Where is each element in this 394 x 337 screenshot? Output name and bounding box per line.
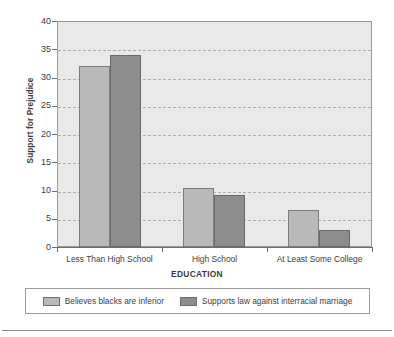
y-axis-tick-label: 35 — [17, 45, 51, 54]
bar — [319, 230, 350, 247]
bar — [183, 188, 214, 247]
gridline — [58, 50, 371, 51]
bar — [214, 195, 245, 247]
y-axis-tick-label: 25 — [17, 101, 51, 110]
y-axis-tick-mark — [52, 106, 57, 107]
y-axis-tick-label: 15 — [17, 158, 51, 167]
y-axis-tick-label: 10 — [17, 186, 51, 195]
y-axis-tick-label: 30 — [17, 73, 51, 82]
y-axis-tick-label: 5 — [17, 214, 51, 223]
y-axis-tick-mark — [52, 21, 57, 22]
y-axis-tick-mark — [52, 78, 57, 79]
legend-item-label: Believes blacks are inferior — [65, 296, 164, 306]
bottom-divider — [2, 330, 392, 331]
bar — [79, 66, 110, 247]
y-axis-tick-mark — [52, 49, 57, 50]
legend-swatch-icon — [43, 297, 60, 306]
y-axis-tick-label: 0 — [17, 243, 51, 252]
bar-chart-figure: Support for Prejudice 0510152025303540 L… — [0, 0, 394, 337]
x-axis-tick-mark — [57, 247, 58, 252]
x-axis-tick-mark — [267, 247, 268, 252]
x-axis-title: EDUCATION — [0, 269, 394, 279]
x-axis-line — [57, 247, 372, 248]
y-axis-tick-label: 20 — [17, 130, 51, 139]
x-axis-tick-mark — [162, 247, 163, 252]
legend-item: Believes blacks are inferior — [43, 296, 164, 306]
legend-swatch-icon — [180, 297, 197, 306]
x-axis-tick-label: At Least Some College — [257, 254, 382, 264]
bar — [110, 55, 141, 247]
y-axis-tick-mark — [52, 191, 57, 192]
legend-item-label: Supports law against interracial marriag… — [202, 296, 352, 306]
y-axis-tick-mark — [52, 162, 57, 163]
chart-legend: Believes blacks are inferior Supports la… — [25, 288, 370, 314]
bar — [288, 210, 319, 247]
legend-item: Supports law against interracial marriag… — [180, 296, 352, 306]
y-axis-tick-mark — [52, 134, 57, 135]
y-axis-tick-mark — [52, 219, 57, 220]
x-axis-tick-mark — [372, 247, 373, 252]
y-axis-tick-label: 40 — [17, 17, 51, 26]
